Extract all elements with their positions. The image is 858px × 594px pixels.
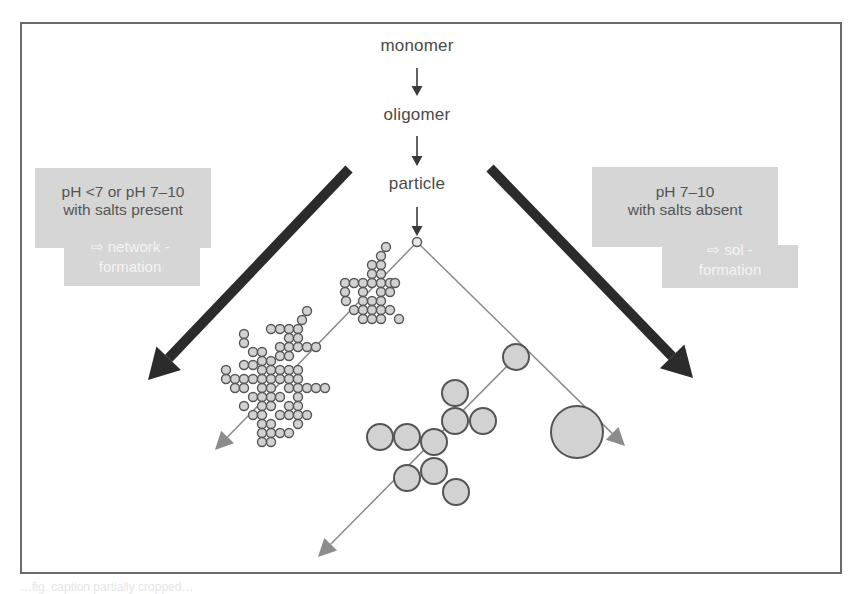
particle-circle bbox=[503, 344, 529, 370]
particle-circle bbox=[267, 384, 276, 393]
particle-circle bbox=[294, 393, 303, 402]
particle-circle bbox=[359, 279, 368, 288]
particle-circle bbox=[285, 411, 294, 420]
particle-circle bbox=[442, 380, 468, 406]
particle-circle bbox=[294, 420, 303, 429]
particle-circle bbox=[285, 325, 294, 334]
particle-circle bbox=[267, 393, 276, 402]
large-particle-circle bbox=[551, 406, 603, 458]
particle-circle bbox=[249, 411, 258, 420]
particle-circle bbox=[368, 261, 377, 270]
particle-circle bbox=[359, 288, 368, 297]
particle-circle bbox=[382, 243, 391, 252]
particle-circle bbox=[240, 330, 249, 339]
particle-circle bbox=[285, 384, 294, 393]
network-large-cluster bbox=[222, 307, 330, 447]
particle-circle bbox=[312, 343, 321, 352]
particle-circle bbox=[276, 325, 285, 334]
particle-circle bbox=[377, 261, 386, 270]
particle-circle bbox=[395, 315, 404, 324]
particle-circle bbox=[294, 325, 303, 334]
particle-circle bbox=[386, 288, 395, 297]
origin-particle-circle bbox=[413, 238, 422, 247]
particle-circle bbox=[276, 375, 285, 384]
diagram-canvas: pH <7 or pH 7–10 with salts present ⇨ ne… bbox=[0, 0, 858, 594]
particle-circle bbox=[377, 306, 386, 315]
particle-circle bbox=[368, 306, 377, 315]
arrowhead-icon bbox=[412, 156, 423, 166]
particle-circle bbox=[258, 348, 267, 357]
particle-circle bbox=[249, 348, 258, 357]
network-small-cluster bbox=[341, 243, 404, 324]
particle-circle bbox=[341, 288, 350, 297]
particle-circle bbox=[350, 279, 359, 288]
particle-circle bbox=[391, 279, 400, 288]
particle-circle bbox=[303, 411, 312, 420]
particle-circle bbox=[258, 375, 267, 384]
particle-circle bbox=[267, 420, 276, 429]
particle-circle bbox=[377, 252, 386, 261]
particle-circle bbox=[276, 411, 285, 420]
branch-origin-particle bbox=[413, 238, 422, 247]
particle-circle bbox=[267, 375, 276, 384]
particle-circle bbox=[294, 366, 303, 375]
particle-circle bbox=[368, 270, 377, 279]
particle-circle bbox=[258, 429, 267, 438]
particle-circle bbox=[267, 429, 276, 438]
particle-circle bbox=[394, 424, 420, 450]
particle-circle bbox=[258, 366, 267, 375]
particle-circle bbox=[285, 343, 294, 352]
particle-circle bbox=[294, 402, 303, 411]
particle-circle bbox=[470, 408, 496, 434]
particle-circle bbox=[377, 279, 386, 288]
particle-circle bbox=[342, 297, 351, 306]
particle-circle bbox=[368, 279, 377, 288]
particle-circle bbox=[298, 316, 307, 325]
particle-circle bbox=[394, 465, 420, 491]
particle-circle bbox=[367, 424, 393, 450]
particle-circle bbox=[359, 315, 368, 324]
particle-circle bbox=[294, 375, 303, 384]
figure-caption: …fig. caption partially cropped… bbox=[20, 580, 840, 594]
sequence-arrows bbox=[412, 68, 423, 236]
particle-circle bbox=[222, 375, 231, 384]
particle-circle bbox=[267, 402, 276, 411]
particle-circle bbox=[303, 343, 312, 352]
particle-circle bbox=[249, 361, 258, 370]
particle-circle bbox=[258, 402, 267, 411]
sol-pathway-arrow bbox=[490, 168, 672, 356]
particle-circle bbox=[341, 279, 350, 288]
particle-circle bbox=[377, 297, 386, 306]
particle-circle bbox=[240, 339, 249, 348]
particle-circle bbox=[258, 438, 267, 447]
particle-circle bbox=[442, 408, 468, 434]
particle-circle bbox=[249, 393, 258, 402]
particle-circle bbox=[421, 458, 447, 484]
particle-circle bbox=[222, 366, 231, 375]
diagram-graphics bbox=[0, 0, 858, 594]
particle-circle bbox=[231, 384, 240, 393]
particle-circle bbox=[377, 315, 386, 324]
particle-circle bbox=[294, 384, 303, 393]
particle-circle bbox=[276, 429, 285, 438]
pathway-arrows bbox=[148, 168, 693, 380]
particle-circle bbox=[240, 361, 249, 370]
particle-circle bbox=[276, 343, 285, 352]
particle-circle bbox=[312, 384, 321, 393]
particle-circle bbox=[377, 288, 386, 297]
particle-circle bbox=[443, 479, 469, 505]
particle-circle bbox=[321, 384, 330, 393]
network-pathway-arrow bbox=[169, 169, 349, 358]
particle-circle bbox=[276, 352, 285, 361]
particle-circle bbox=[258, 411, 267, 420]
particle-circle bbox=[267, 366, 276, 375]
particle-circle bbox=[294, 411, 303, 420]
particle-circle bbox=[285, 334, 294, 343]
particle-circle bbox=[285, 366, 294, 375]
particle-circle bbox=[359, 306, 368, 315]
particle-circle bbox=[285, 402, 294, 411]
particle-circle bbox=[276, 393, 285, 402]
particle-circle bbox=[240, 384, 249, 393]
particle-circle bbox=[258, 420, 267, 429]
particle-circle bbox=[258, 384, 267, 393]
